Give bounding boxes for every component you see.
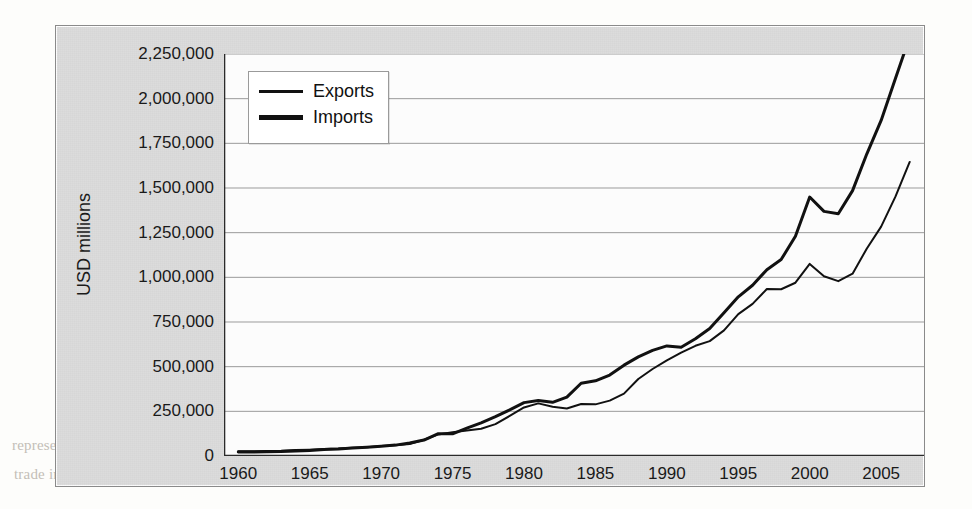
y-axis-tick-label: 250,000: [153, 401, 214, 421]
x-axis-tick-label: 1970: [362, 464, 400, 484]
x-axis-tick-label: 1980: [505, 464, 543, 484]
y-axis-tick-label: 0: [205, 446, 214, 466]
legend-entry-exports: Exports: [259, 82, 374, 100]
x-axis-tick-label: 1990: [648, 464, 686, 484]
series-line-exports: [238, 162, 909, 451]
chart-frame: USD millions 2,250,0002,000,0001,750,000…: [55, 25, 925, 487]
x-axis-tick-label: 1975: [434, 464, 472, 484]
x-axis-tick-label: 2000: [791, 464, 829, 484]
x-axis-tick-label: 1995: [719, 464, 757, 484]
y-axis-tick-label: 2,250,000: [138, 44, 214, 64]
legend-line-icon-exports: [259, 90, 303, 93]
y-axis-tick-label: 500,000: [153, 357, 214, 377]
x-axis-tick-label: 2005: [862, 464, 900, 484]
y-axis-tick-label: 1,750,000: [138, 133, 214, 153]
y-axis-tick-labels: 2,250,0002,000,0001,750,0001,500,0001,25…: [56, 54, 214, 456]
legend-line-icon-imports: [259, 115, 303, 120]
y-axis-tick-label: 1,000,000: [138, 267, 214, 287]
chart-legend: Exports Imports: [248, 71, 389, 144]
x-axis-tick-labels: 1960196519701975198019851990199520002005: [224, 462, 924, 490]
y-axis-tick-label: 1,250,000: [138, 223, 214, 243]
legend-entry-imports: Imports: [259, 108, 373, 126]
x-axis-tick-label: 1960: [219, 464, 257, 484]
legend-label-imports: Imports: [313, 108, 373, 126]
legend-label-exports: Exports: [313, 82, 374, 100]
y-axis-tick-label: 1,500,000: [138, 178, 214, 198]
x-axis-tick-label: 1965: [291, 464, 329, 484]
x-axis-tick-label: 1985: [577, 464, 615, 484]
y-axis-tick-label: 2,000,000: [138, 89, 214, 109]
y-axis-tick-label: 750,000: [153, 312, 214, 332]
